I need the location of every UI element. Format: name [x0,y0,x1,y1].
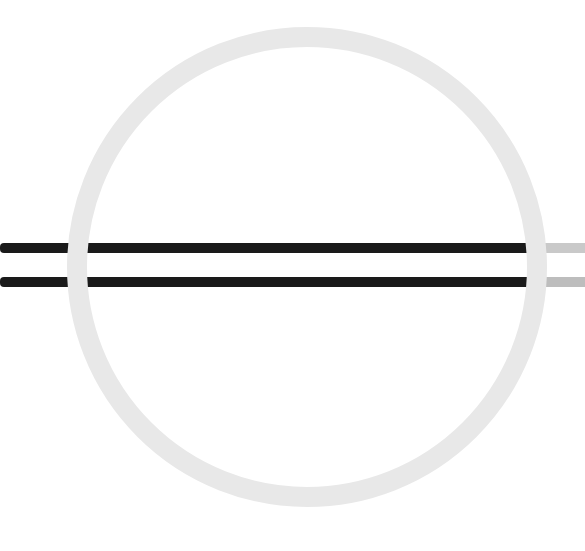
ring [77,37,537,497]
diagram-canvas [0,0,585,551]
